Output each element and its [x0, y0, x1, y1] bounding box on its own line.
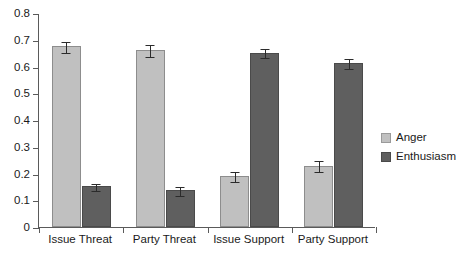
y-axis-tick-label: 0.3 [14, 142, 30, 154]
error-bar-cap-upper [92, 184, 101, 185]
bar-enthusiasm-issue-threat [82, 186, 111, 227]
error-bar-cap-lower [92, 191, 101, 192]
y-axis-tick-label: 0 [24, 222, 30, 234]
error-bar-cap-upper [314, 161, 323, 162]
x-axis-label-issue-support: Issue Support [213, 234, 284, 246]
legend-label: Anger [396, 132, 427, 144]
y-axis-tick [33, 41, 39, 42]
y-axis-tick-label: 0.6 [14, 62, 30, 74]
error-bar-cap-upper [344, 59, 353, 60]
error-bar-cap-lower [62, 53, 71, 54]
y-axis-tick-label: 0.8 [14, 8, 30, 20]
y-axis-tick [33, 94, 39, 95]
y-axis-tick [33, 175, 39, 176]
bar-anger-party-support [304, 166, 333, 227]
error-bar-cap-upper [260, 49, 269, 50]
error-bar-cap-lower [230, 182, 239, 183]
error-bar-cap-upper [62, 42, 71, 43]
error-bar-line [235, 172, 236, 182]
x-axis-tick [39, 227, 40, 233]
bar-anger-party-threat [136, 50, 165, 227]
bar-anger-issue-threat [52, 46, 81, 227]
x-axis-tick [292, 227, 293, 233]
error-bar-cap-lower [146, 57, 155, 58]
bar-enthusiasm-issue-support [250, 53, 279, 227]
legend-swatch-icon [381, 133, 391, 143]
y-axis-tick [33, 121, 39, 122]
x-axis-label-party-threat: Party Threat [133, 234, 196, 246]
plot-area: 00.10.20.30.40.50.60.70.8 [38, 14, 375, 228]
error-bar-line [180, 187, 181, 196]
y-axis-tick-label: 0.7 [14, 35, 30, 47]
y-axis-tick [33, 201, 39, 202]
bar-anger-issue-support [220, 176, 249, 227]
error-bar-line [265, 49, 266, 58]
y-axis-tick-label: 0.5 [14, 89, 30, 101]
chart-legend: AngerEnthusiasm [381, 129, 456, 167]
y-axis-tick-label: 0.4 [14, 115, 30, 127]
error-bar-line [319, 161, 320, 172]
error-bar-line [66, 42, 67, 54]
x-axis-tick [208, 227, 209, 233]
y-axis-tick-label: 0.1 [14, 196, 30, 208]
error-bar-cap-lower [176, 196, 185, 197]
error-bar-cap-lower [260, 58, 269, 59]
legend-swatch-icon [381, 152, 391, 162]
y-axis-tick-label: 0.2 [14, 169, 30, 181]
x-axis-tick [376, 227, 377, 233]
error-bar-cap-lower [314, 172, 323, 173]
y-axis-tick [33, 14, 39, 15]
x-axis-label-party-support: Party Support [298, 234, 368, 246]
bar-enthusiasm-party-support [334, 63, 363, 227]
error-bar-cap-upper [146, 45, 155, 46]
error-bar-line [96, 184, 97, 191]
error-bar-line [150, 45, 151, 57]
legend-item-anger: Anger [381, 129, 456, 146]
error-bar-cap-lower [344, 69, 353, 70]
x-axis-label-issue-threat: Issue Threat [48, 234, 112, 246]
legend-label: Enthusiasm [396, 151, 456, 163]
y-axis-tick [33, 148, 39, 149]
error-bar-line [349, 59, 350, 69]
y-axis-tick [33, 68, 39, 69]
error-bar-cap-upper [176, 187, 185, 188]
x-axis-tick [123, 227, 124, 233]
error-bar-cap-upper [230, 172, 239, 173]
legend-item-enthusiasm: Enthusiasm [381, 148, 456, 165]
